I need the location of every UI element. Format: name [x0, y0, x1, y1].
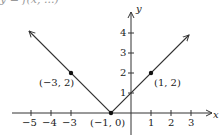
- x-tick-label: 2: [168, 118, 174, 128]
- data-point: [149, 71, 153, 75]
- point-label: (−1, 0): [90, 118, 125, 128]
- data-point: [69, 71, 73, 75]
- point-label: (1, 2): [154, 78, 181, 88]
- point-label: (−3, 2): [39, 78, 74, 88]
- data-point: [109, 111, 113, 115]
- graph-plot: [0, 0, 221, 135]
- x-tick-label: −5: [22, 118, 37, 128]
- function-line: [29, 31, 189, 113]
- y-tick-label: 2: [120, 68, 126, 78]
- y-tick-label: 1: [120, 88, 126, 98]
- y-axis-label: y: [136, 4, 142, 14]
- x-tick-label: −3: [62, 118, 77, 128]
- labeled-points: [69, 71, 153, 115]
- x-tick-label: 3: [188, 118, 194, 128]
- x-tick-label: −4: [42, 118, 57, 128]
- ticks: [31, 33, 191, 116]
- x-axis-label: x: [213, 110, 219, 120]
- x-tick-label: 1: [148, 118, 154, 128]
- y-tick-label: 3: [120, 48, 126, 58]
- y-tick-label: 4: [120, 28, 126, 38]
